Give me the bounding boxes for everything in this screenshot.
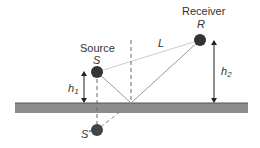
h2-label: h2 xyxy=(221,66,232,79)
distance-label: L xyxy=(158,38,164,49)
source-title-label: Source xyxy=(80,43,115,54)
h1-label: h1 xyxy=(68,83,79,96)
image-source-label: S' xyxy=(81,129,90,140)
ground-plane xyxy=(15,103,248,113)
h1-arrowhead-down xyxy=(81,98,87,103)
receiver-symbol-label: R xyxy=(197,19,205,30)
h1-arrowhead-up xyxy=(81,71,87,76)
h2-arrowhead-up xyxy=(211,40,217,45)
reflected-ray-line xyxy=(131,40,200,103)
incident-ray-line xyxy=(97,72,131,103)
h2-arrowhead-down xyxy=(211,98,217,103)
source-symbol-label: S xyxy=(93,55,100,66)
image-source-node xyxy=(91,124,103,136)
h2-subscript: 2 xyxy=(227,70,231,79)
source-node xyxy=(91,66,103,78)
receiver-node xyxy=(194,34,206,46)
receiver-title-label: Receiver xyxy=(182,6,225,17)
h1-subscript: 1 xyxy=(74,87,78,96)
